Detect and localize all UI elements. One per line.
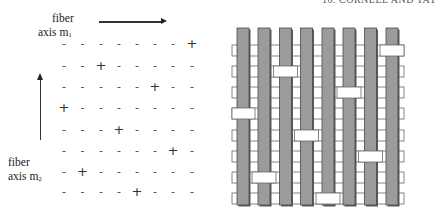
- warp-strand: [280, 28, 292, 205]
- weft-float: [274, 66, 298, 77]
- warp-strand: [365, 28, 377, 205]
- weft-float: [337, 87, 361, 98]
- weft-float: [316, 193, 340, 204]
- warp-strand: [322, 28, 334, 205]
- warp-strand: [301, 28, 313, 205]
- weft-float: [359, 151, 383, 162]
- weft-float: [295, 130, 319, 141]
- weft-float: [232, 108, 255, 119]
- weft-float: [252, 172, 276, 183]
- warp-strand: [343, 28, 355, 205]
- weft-float: [380, 45, 404, 56]
